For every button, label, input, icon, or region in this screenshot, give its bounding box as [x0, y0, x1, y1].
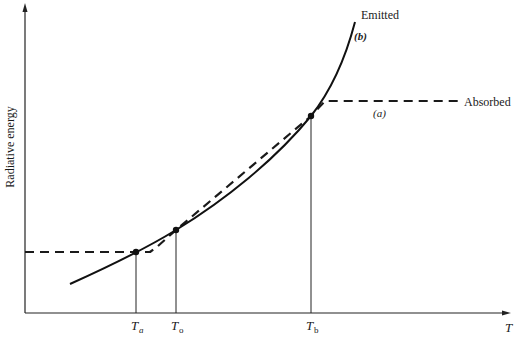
- point-to: [173, 227, 179, 233]
- tick-label-ta: T a: [131, 318, 144, 335]
- tick-label-tb: T b: [306, 318, 319, 335]
- emitted-tag: (b): [354, 30, 367, 43]
- emitted-label: Emitted: [361, 8, 399, 22]
- intersection-points: [133, 113, 314, 255]
- to-main: T: [171, 318, 179, 333]
- tb-main: T: [306, 318, 314, 333]
- to-sub: o: [179, 325, 184, 335]
- tb-sub: b: [314, 325, 319, 335]
- point-tb: [308, 113, 314, 119]
- tick-label-to: T o: [171, 318, 184, 335]
- absorbed-tag: (a): [373, 107, 386, 120]
- ta-sub: a: [139, 325, 144, 335]
- axes: [23, 3, 512, 316]
- y-axis-label: Radiative energy: [3, 106, 17, 187]
- x-axis-label: T: [505, 320, 513, 335]
- absorbed-curve: [25, 101, 460, 252]
- point-ta: [133, 249, 139, 255]
- ta-main: T: [131, 318, 139, 333]
- radiative-energy-diagram: Radiative energy T Emitted (b) Absorbed …: [0, 0, 515, 339]
- y-axis-arrow-icon: [23, 3, 28, 12]
- x-axis-arrow-icon: [502, 311, 511, 316]
- emitted-curve: [70, 22, 355, 284]
- absorbed-label: Absorbed: [464, 95, 511, 109]
